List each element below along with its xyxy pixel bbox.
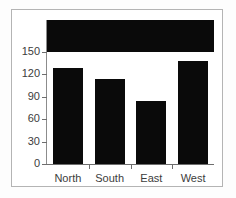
bar-slot-east xyxy=(131,53,173,165)
bar-slot-north xyxy=(47,53,89,165)
plot-area xyxy=(47,20,214,165)
x-axis-tick-labels: North South East West xyxy=(47,171,214,187)
bar-slot-south xyxy=(89,53,131,165)
y-tick-label-0: 0 xyxy=(0,158,40,169)
y-tick-label-3: 90 xyxy=(0,91,40,102)
y-tick-label-1: 30 xyxy=(0,136,40,147)
overflow-band xyxy=(47,20,214,52)
x-tick-2 xyxy=(131,165,132,169)
y-tick-label-2: 60 xyxy=(0,113,40,124)
bar-series xyxy=(47,53,214,165)
bar-east[interactable] xyxy=(136,101,166,165)
x-tick-3 xyxy=(172,165,173,169)
bar-north[interactable] xyxy=(53,68,83,165)
y-axis-line xyxy=(46,20,47,165)
y-tick-label-4: 120 xyxy=(0,68,40,79)
y-tick-label-wrap-1: 30 xyxy=(0,136,40,147)
y-tick-30 xyxy=(42,142,47,143)
y-tick-label-wrap-4: 120 xyxy=(0,68,40,79)
x-tick-label-1: South xyxy=(89,171,131,187)
y-tick-label-wrap-5: 150 xyxy=(0,46,40,57)
y-tick-label-wrap-2: 60 xyxy=(0,113,40,124)
y-tick-0 xyxy=(42,164,47,165)
x-axis-line xyxy=(46,164,214,165)
y-tick-label-wrap-0: 0 xyxy=(0,158,40,169)
x-tick-1 xyxy=(89,165,90,169)
y-tick-60 xyxy=(42,119,47,120)
y-tick-120 xyxy=(42,74,47,75)
x-tick-label-3: West xyxy=(172,171,214,187)
y-tick-90 xyxy=(42,97,47,98)
bar-slot-west xyxy=(172,53,214,165)
y-tick-label-5: 150 xyxy=(0,46,40,57)
y-tick-150 xyxy=(42,52,47,53)
chart-figure: 0306090120150 North South East West xyxy=(0,0,236,198)
x-tick-label-2: East xyxy=(131,171,173,187)
x-tick-label-0: North xyxy=(47,171,89,187)
y-tick-label-wrap-3: 90 xyxy=(0,91,40,102)
bar-south[interactable] xyxy=(95,79,125,165)
bar-west[interactable] xyxy=(178,61,208,165)
